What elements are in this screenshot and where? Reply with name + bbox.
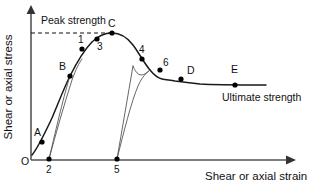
label-point-C: C — [108, 17, 116, 29]
stress-strain-figure: A B C D E 1 2 3 4 5 6 Peak strength Ulti… — [0, 0, 317, 184]
ultimate-strength-label: Ultimate strength — [222, 91, 302, 103]
label-point-5: 5 — [114, 164, 120, 175]
label-point-6: 6 — [163, 57, 169, 68]
marker-B — [67, 73, 72, 78]
label-point-D: D — [187, 64, 195, 76]
loop1-reload-path — [49, 59, 82, 159]
marker-C — [109, 30, 114, 35]
loop2-reload-path — [117, 70, 150, 159]
label-point-4: 4 — [139, 44, 145, 55]
peak-strength-label: Peak strength — [41, 14, 106, 26]
marker-6 — [157, 67, 162, 72]
marker-E — [232, 82, 237, 87]
marker-4 — [139, 56, 144, 61]
marker-D — [178, 76, 183, 81]
label-point-E: E — [231, 63, 238, 75]
marker-5 — [114, 156, 119, 161]
y-axis-arrowhead — [27, 5, 36, 14]
y-axis-label: Shear or axial stress — [2, 34, 14, 139]
label-point-A: A — [34, 126, 41, 138]
plot-canvas: A B C D E 1 2 3 4 5 6 Peak strength Ulti… — [0, 0, 317, 184]
label-point-B: B — [59, 60, 66, 72]
hysteresis-loop-1 — [49, 59, 82, 159]
marker-A — [39, 139, 44, 144]
x-axis-arrowhead — [286, 156, 296, 165]
origin-label: O — [21, 155, 29, 167]
hysteresis-loop-2 — [117, 66, 150, 159]
label-point-2: 2 — [46, 164, 52, 175]
label-point-1: 1 — [78, 34, 84, 45]
marker-1 — [79, 46, 84, 51]
marker-2 — [46, 156, 51, 161]
x-axis-label: Shear or axial strain — [205, 170, 307, 182]
loop2-unload-path — [117, 66, 133, 159]
label-point-3: 3 — [97, 41, 103, 52]
